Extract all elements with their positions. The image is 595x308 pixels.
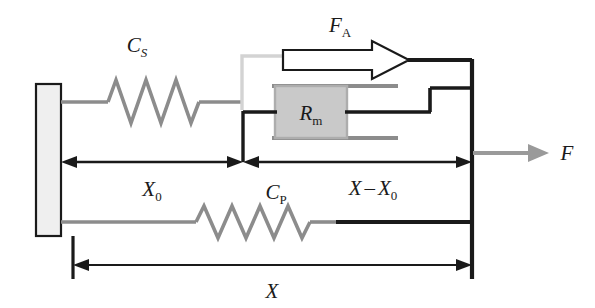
x-minus-x0-symbol1: X [348,176,363,200]
external-force-label: F [560,141,574,165]
series-spring-subscript: S [141,45,148,60]
x-minus-x0-subscript: 0 [391,188,398,203]
x-label: X [265,279,280,303]
x-minus-x0-operator: – [364,176,376,200]
mechanical-model-diagram: CS FA Rm F X0 CP X–X0 X [0,0,595,308]
x-minus-x0-symbol2: X [377,176,392,200]
parallel-spring-subscript: P [279,192,286,207]
parallel-spring-symbol: C [265,180,280,204]
parallel-elastic-element [61,206,472,238]
fixed-wall [36,84,61,236]
active-force-subscript: A [342,25,352,40]
diagram-canvas: CS FA Rm F X0 CP X–X0 X [0,0,595,308]
x0-dimension [61,156,243,168]
active-force-symbol: F [328,13,342,37]
active-force-block-arrow [283,41,409,79]
series-spring-symbol: C [127,33,142,57]
x-minus-x0-label: X–X0 [348,176,398,203]
x0-label: X0 [141,177,161,204]
external-force-arrow [473,144,549,162]
x-dimension [73,259,472,271]
active-force-label: FA [328,13,352,40]
x0-subscript: 0 [155,189,162,204]
x-minus-x0-dimension [243,156,472,168]
series-spring-label: CS [127,33,148,60]
damper-subscript: m [312,113,322,128]
damper-symbol: R [299,101,313,125]
series-elastic-element [61,80,243,123]
parallel-spring-label: CP [265,180,286,207]
x0-symbol: X [141,177,156,201]
